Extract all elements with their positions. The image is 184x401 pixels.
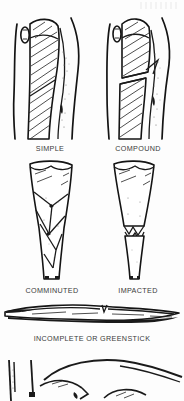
- simple-fracture-illustration: [8, 8, 92, 140]
- caption-greenstick: INCOMPLETE OR GREENSTICK: [0, 334, 184, 343]
- caption-impacted: IMPACTED: [100, 286, 176, 295]
- caption-comminuted: COMMINUTED: [6, 286, 98, 295]
- panel-greenstick: [2, 300, 182, 328]
- panel-compound: [96, 8, 180, 140]
- impacted-fracture-illustration: [106, 158, 164, 280]
- greenstick-fracture-illustration: [2, 300, 182, 328]
- panel-simple: [8, 8, 92, 140]
- fracture-types-figure: SIMPLE: [0, 0, 184, 401]
- compound-fracture-illustration: [96, 8, 180, 140]
- comminuted-fracture-illustration: [22, 158, 82, 280]
- panel-comminuted: [22, 158, 82, 280]
- caption-simple: SIMPLE: [8, 144, 92, 153]
- caption-compound: COMPOUND: [96, 144, 180, 153]
- panel-bottom-partial: [0, 358, 184, 401]
- panel-impacted: [106, 158, 164, 280]
- bottom-partial-illustration: [0, 358, 184, 401]
